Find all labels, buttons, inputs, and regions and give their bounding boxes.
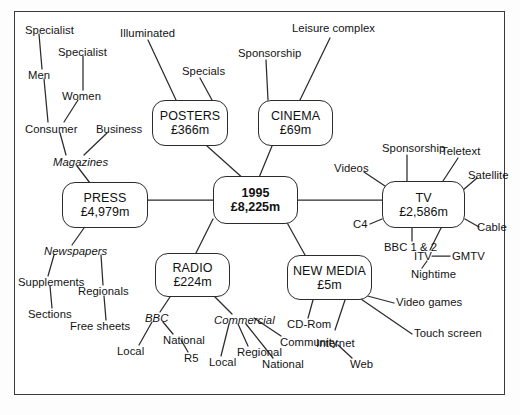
node-cinema-value: £69m	[280, 123, 311, 137]
label-specialist-women: Specialist	[58, 47, 107, 58]
node-newmedia-title: NEW MEDIA	[293, 264, 366, 278]
node-press-value: £4,979m	[81, 205, 130, 219]
label-local-commercial: Local	[209, 357, 236, 368]
label-sponsorship-cinema: Sponsorship	[238, 48, 301, 59]
label-business: Business	[96, 124, 142, 135]
node-center[interactable]: 1995 £8,225m	[213, 176, 298, 224]
node-radio-value: £224m	[173, 275, 211, 289]
label-sponsorship-tv: Sponsorship	[382, 143, 445, 154]
label-nightime: Nightime	[411, 269, 456, 280]
label-videos: Videos	[334, 163, 369, 174]
node-center-title: 1995	[241, 186, 269, 200]
label-specials: Specials	[182, 66, 225, 77]
node-posters-value: £366m	[171, 123, 209, 137]
label-regionals: Regionals	[78, 286, 129, 297]
node-press[interactable]: PRESS £4,979m	[62, 182, 148, 228]
label-leisure-complex: Leisure complex	[292, 23, 375, 34]
node-radio-title: RADIO	[172, 261, 212, 275]
label-video-games: Video games	[396, 297, 462, 308]
node-cinema[interactable]: CINEMA £69m	[258, 100, 333, 146]
node-tv-title: TV	[415, 191, 431, 205]
label-local-bbc: Local	[117, 346, 144, 357]
label-bbc-radio: BBC	[145, 313, 168, 324]
label-magazines: Magazines	[53, 157, 108, 168]
label-cable: Cable	[477, 222, 507, 233]
node-cinema-title: CINEMA	[271, 109, 320, 123]
node-press-title: PRESS	[84, 191, 127, 205]
node-tv[interactable]: TV £2,586m	[382, 181, 465, 228]
label-free-sheets: Free sheets	[70, 321, 130, 332]
node-tv-value: £2,586m	[399, 205, 448, 219]
label-itv: ITV	[414, 251, 432, 262]
label-men: Men	[28, 70, 50, 81]
label-supplements: Supplements	[18, 277, 85, 288]
node-radio[interactable]: RADIO £224m	[155, 253, 230, 297]
label-touch-screen: Touch screen	[414, 328, 482, 339]
node-posters-title: POSTERS	[160, 109, 220, 123]
label-specialist-men: Specialist	[25, 25, 74, 36]
label-internet: Internet	[316, 338, 355, 349]
label-consumer: Consumer	[25, 124, 78, 135]
label-commercial: Commercial	[214, 315, 275, 326]
diagram-page: 1995 £8,225m PRESS £4,979m POSTERS £366m…	[0, 0, 520, 415]
label-sections: Sections	[28, 309, 72, 320]
node-newmedia-value: £5m	[317, 278, 341, 292]
label-illuminated: Illuminated	[120, 28, 175, 39]
label-national-commercial: National	[262, 359, 304, 370]
label-cd-rom: CD-Rom	[287, 319, 331, 330]
node-center-value: £8,225m	[231, 200, 280, 214]
label-teletext: Teletext	[441, 146, 480, 157]
label-satellite: Satellite	[468, 170, 509, 181]
label-web: Web	[350, 359, 373, 370]
node-posters[interactable]: POSTERS £366m	[152, 100, 228, 146]
label-women: Women	[62, 91, 101, 102]
label-regional-commercial: Regional	[237, 347, 282, 358]
node-newmedia[interactable]: NEW MEDIA £5m	[287, 255, 372, 300]
label-gmtv: GMTV	[452, 251, 485, 262]
label-r5: R5	[184, 353, 199, 364]
label-national-bbc: National	[163, 335, 205, 346]
label-c4: C4	[353, 219, 368, 230]
label-newspapers: Newspapers	[44, 246, 107, 257]
